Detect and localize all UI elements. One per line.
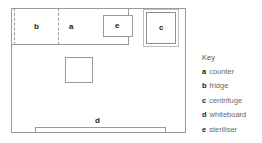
key-item-a: acounter bbox=[202, 68, 260, 76]
key-letter-c: c bbox=[202, 96, 206, 105]
key-title: Key bbox=[202, 54, 260, 62]
plan-label-b: b bbox=[34, 23, 39, 31]
key-text-b: fridge bbox=[210, 81, 229, 90]
plan-label-e: e bbox=[115, 22, 119, 30]
plan-label-a: a bbox=[69, 23, 73, 31]
key-item-e: esteriliser bbox=[202, 126, 260, 134]
key-text-c: centrifuge bbox=[209, 96, 242, 105]
key-letter-d: d bbox=[202, 110, 207, 119]
room-outline: b a e c d bbox=[11, 8, 186, 133]
key-text-d: whiteboard bbox=[210, 110, 247, 119]
whiteboard-bar bbox=[35, 127, 166, 133]
key-text-e: steriliser bbox=[209, 125, 237, 134]
plan-label-d: d bbox=[95, 117, 100, 125]
key-list: acounter bfridge ccentrifuge dwhiteboard… bbox=[202, 68, 260, 134]
key-letter-a: a bbox=[202, 67, 206, 76]
key-item-b: bfridge bbox=[202, 82, 260, 90]
key-legend: Key acounter bfridge ccentrifuge dwhiteb… bbox=[202, 54, 260, 140]
plan-label-c: c bbox=[159, 24, 163, 32]
unlabelled-square-object bbox=[65, 57, 93, 83]
key-letter-b: b bbox=[202, 81, 207, 90]
key-item-c: ccentrifuge bbox=[202, 97, 260, 105]
diagram-canvas: b a e c d Key acounter bfridge ccentrifu… bbox=[0, 0, 262, 143]
key-item-d: dwhiteboard bbox=[202, 111, 260, 119]
key-letter-e: e bbox=[202, 125, 206, 134]
key-text-a: counter bbox=[209, 67, 234, 76]
